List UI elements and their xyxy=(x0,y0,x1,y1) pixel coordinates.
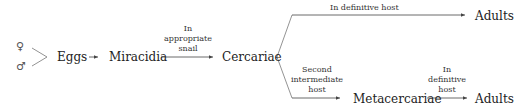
male-symbol-icon: ♂ xyxy=(16,61,26,72)
node-adults-bottom: Adults xyxy=(475,93,514,105)
label-cercariae-metacercariae: Second intermediate host xyxy=(288,66,346,94)
node-cercariae: Cercariae xyxy=(222,51,282,63)
label-miracidia-cercariae: In appropriate snail xyxy=(160,25,216,53)
label-cercariae-adults: In definitive host xyxy=(330,4,399,12)
node-adults-top: Adults xyxy=(475,10,514,22)
node-eggs: Eggs xyxy=(57,51,87,63)
female-symbol-icon: ♀ xyxy=(16,41,24,52)
node-miracidia: Miracidia xyxy=(109,51,167,63)
label-metacercariae-adults: In definitive host xyxy=(425,66,469,94)
converge-lines xyxy=(32,48,47,66)
node-metacercariae: Metacercariae xyxy=(353,93,442,105)
